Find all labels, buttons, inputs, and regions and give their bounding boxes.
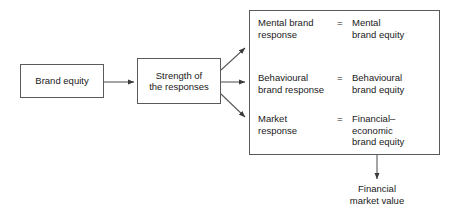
equals-sign: =: [337, 72, 352, 95]
equals-sign: =: [337, 113, 352, 148]
equals-sign: =: [337, 17, 352, 40]
brand-equity-label: Brand equity: [20, 64, 104, 98]
diagram-canvas: Brand equity Strength of the responses M…: [0, 0, 458, 216]
equation-response-label: Behavioural brand response: [258, 72, 337, 95]
equation-equity-label: Financial– economic brand equity: [352, 113, 404, 148]
equation-response-label: Market response: [258, 113, 337, 148]
equation-equity-label: Behavioural brand equity: [352, 72, 404, 95]
equation-row-behavioural: Behavioural brand response = Behavioural…: [258, 72, 404, 95]
connector-strength-to-mental: [221, 48, 245, 70]
equation-row-mental: Mental brand response = Mental brand equ…: [258, 17, 404, 40]
equation-response-label: Mental brand response: [258, 17, 337, 40]
connector-strength-to-market: [221, 94, 245, 117]
equation-equity-label: Mental brand equity: [352, 17, 404, 40]
equation-row-market: Market response = Financial– economic br…: [258, 113, 404, 148]
financial-market-value-label: Financial market value: [317, 183, 437, 206]
strength-of-responses-label: Strength of the responses: [137, 58, 221, 104]
